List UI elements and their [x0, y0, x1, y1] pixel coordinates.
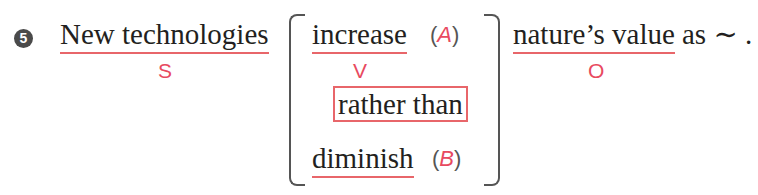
option-b-label: (B) — [432, 146, 461, 172]
option-a-label: (A) — [430, 22, 459, 48]
object-role-label: O — [588, 60, 604, 82]
subject-text: New technologies — [60, 18, 269, 54]
verb-role-label: V — [353, 60, 367, 82]
item-number-badge: 5 — [14, 29, 33, 48]
connector-rather-than: rather than — [333, 86, 468, 122]
right-bracket — [484, 14, 500, 186]
subject-role-label: S — [158, 60, 172, 82]
option-a-verb: increase — [312, 18, 407, 54]
object-text: nature’s value — [513, 18, 675, 54]
left-bracket — [289, 14, 305, 186]
sentence-tail: as ∼ . — [682, 18, 752, 50]
option-b-verb: diminish — [312, 142, 414, 178]
